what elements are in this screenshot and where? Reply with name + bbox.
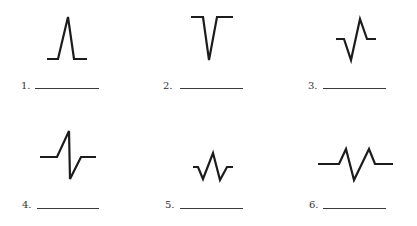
item-number-3: 3.: [308, 81, 318, 91]
item-number-6: 6.: [309, 200, 319, 210]
answer-blank-2[interactable]: [180, 88, 243, 89]
answer-blank-5[interactable]: [180, 208, 243, 209]
item-number-1: 1.: [21, 81, 31, 91]
item-number-2: 2.: [163, 81, 173, 91]
waveform-5: [193, 153, 233, 180]
answer-blank-6[interactable]: [323, 208, 386, 209]
answer-blank-4[interactable]: [37, 208, 99, 209]
item-number-5: 5.: [165, 200, 175, 210]
waveform-6: [318, 149, 393, 180]
waveform-1: [47, 17, 87, 59]
waveform-2: [191, 17, 233, 60]
answer-blank-1[interactable]: [35, 88, 99, 89]
item-number-4: 4.: [22, 200, 32, 210]
waveform-diagram: [0, 0, 417, 226]
waveform-4: [40, 131, 96, 179]
answer-blank-3[interactable]: [323, 88, 386, 89]
waveform-3: [336, 19, 376, 60]
